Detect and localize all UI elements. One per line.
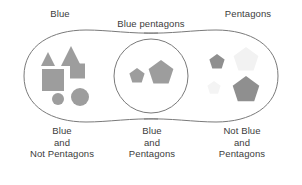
shape-pentagon-notblue-small xyxy=(209,54,224,69)
shape-triangle-small xyxy=(41,52,55,66)
caption-left-line1: Blue xyxy=(14,125,110,137)
label-blue-pentagons: Blue pentagons xyxy=(103,18,199,30)
caption-blue-and-pentagons: Blue and Pentagons xyxy=(116,125,188,160)
caption-middle-line2: and xyxy=(116,137,188,149)
shape-pentagon-faint-small xyxy=(207,81,220,94)
shape-circle-large xyxy=(71,88,89,106)
caption-middle-line3: Pentagons xyxy=(116,148,188,160)
caption-not-blue-and-pentagons: Not Blue and Pentagons xyxy=(196,125,288,160)
shape-pentagon-blue-large xyxy=(149,60,174,84)
shape-circle-small xyxy=(52,93,64,105)
shape-pentagon-notblue-large xyxy=(233,76,260,101)
caption-middle-line1: Blue xyxy=(116,125,188,137)
shape-square-small xyxy=(70,64,85,79)
caption-right-line1: Not Blue xyxy=(196,125,288,137)
shape-square-large xyxy=(42,69,64,91)
label-pentagons: Pentagons xyxy=(208,8,288,20)
label-blue: Blue xyxy=(26,8,94,20)
caption-right-line3: Pentagons xyxy=(196,148,288,160)
shape-pentagon-faint-large xyxy=(234,47,259,71)
shape-triangle-large xyxy=(61,46,81,66)
right-lobe-shapes xyxy=(207,47,259,101)
caption-left-line3: Not Pentagons xyxy=(14,148,110,160)
venn-diagram: Blue Blue pentagons Pentagons Blue and N… xyxy=(0,0,302,185)
caption-left-line2: and xyxy=(14,137,110,149)
left-lobe-shapes xyxy=(41,46,89,106)
shape-pentagon-blue-small xyxy=(129,68,144,83)
caption-right-line2: and xyxy=(196,137,288,149)
caption-blue-not-pentagons: Blue and Not Pentagons xyxy=(14,125,110,160)
middle-circle-shapes xyxy=(129,60,173,84)
